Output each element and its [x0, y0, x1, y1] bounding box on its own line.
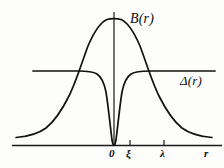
curve-label-order-parameter: Δ(r): [180, 74, 202, 87]
axis-label-r: r: [204, 148, 208, 159]
tick-label-lambda: λ: [160, 148, 165, 159]
tick-label-xi: ξ: [126, 148, 131, 159]
curve-label-magnetic-field: B(r): [130, 12, 154, 26]
physics-figure: B(r) Δ(r) 0 ξ λ r: [0, 0, 224, 168]
tick-label-origin: 0: [109, 148, 115, 159]
